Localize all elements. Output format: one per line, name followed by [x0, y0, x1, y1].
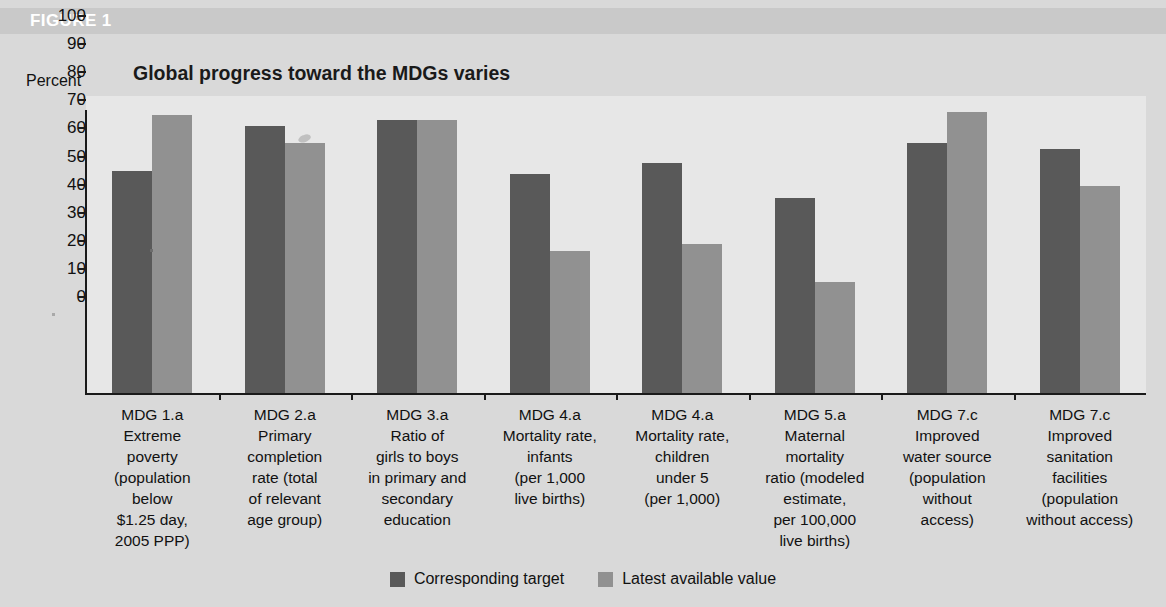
bar-corresponding-target[interactable] — [1040, 149, 1080, 393]
x-axis-category-label-line: (population — [86, 467, 219, 488]
x-axis-category-label-line: Improved — [881, 425, 1014, 446]
y-tick-mark — [78, 15, 86, 17]
x-axis-category-label-line: live births) — [749, 530, 882, 551]
x-axis-category-label-line: ratio (modeled — [749, 467, 882, 488]
x-tick-mark — [749, 393, 751, 400]
x-axis-category-label-line: Ratio of — [351, 425, 484, 446]
bar-latest-available-value[interactable] — [285, 143, 325, 393]
x-axis-category-label-line: estimate, — [749, 488, 882, 509]
x-axis-category-label-line: $1.25 day, — [86, 509, 219, 530]
x-axis-category-label: MDG 5.aMaternalmortalityratio (modeledes… — [749, 404, 882, 551]
x-axis-category-label-line: mortality — [749, 446, 882, 467]
x-axis-category-label-line: (population — [881, 467, 1014, 488]
bar-latest-available-value[interactable] — [417, 120, 457, 393]
legend-label: Corresponding target — [414, 570, 564, 588]
x-axis-category-label-line: girls to boys — [351, 446, 484, 467]
legend-swatch — [598, 572, 613, 587]
x-axis-category-label-line: sanitation — [1014, 446, 1147, 467]
x-axis-category-label-line: (per 1,000 — [484, 467, 617, 488]
x-axis-category-label: MDG 7.cImprovedwater source(populationwi… — [881, 404, 1014, 530]
x-axis-category-label: MDG 2.aPrimarycompletionrate (totalof re… — [219, 404, 352, 530]
x-axis-category-label-line: (per 1,000) — [616, 488, 749, 509]
legend-item[interactable]: Latest available value — [598, 570, 776, 588]
x-axis-category-label-line: Improved — [1014, 425, 1147, 446]
x-axis-category-label: MDG 3.aRatio ofgirls to boysin primary a… — [351, 404, 484, 530]
x-axis-category-label-line: completion — [219, 446, 352, 467]
x-axis-category-label-line: MDG 7.c — [881, 404, 1014, 425]
bar-latest-available-value[interactable] — [1080, 186, 1120, 393]
bar-corresponding-target[interactable] — [775, 198, 815, 393]
x-tick-mark — [219, 393, 221, 400]
bar-group — [510, 112, 590, 393]
x-tick-mark — [881, 393, 883, 400]
bar-group — [907, 112, 987, 393]
x-axis-category-label-line: water source — [881, 446, 1014, 467]
x-axis-category-label-line: secondary — [351, 488, 484, 509]
x-axis-category-label-line: live births) — [484, 488, 617, 509]
plot-area — [86, 112, 1146, 393]
bar-group — [775, 112, 855, 393]
x-axis-category-label-line: per 100,000 — [749, 509, 882, 530]
bar-latest-available-value[interactable] — [947, 112, 987, 393]
x-axis-category-label-line: Primary — [219, 425, 352, 446]
x-axis-category-label-line: 2005 PPP) — [86, 530, 219, 551]
x-axis-category-label-line: poverty — [86, 446, 219, 467]
x-axis-category-label-line: MDG 2.a — [219, 404, 352, 425]
bar-group — [245, 112, 325, 393]
bar-group — [642, 112, 722, 393]
scan-artifact-dot — [150, 249, 153, 252]
x-axis-category-label-line: without access) — [1014, 509, 1147, 530]
x-axis-category-label-line: MDG 3.a — [351, 404, 484, 425]
x-axis-category-label-line: (population — [1014, 488, 1147, 509]
x-axis-category-label-line: MDG 7.c — [1014, 404, 1147, 425]
x-axis-category-label: MDG 4.aMortality rate,infants(per 1,000l… — [484, 404, 617, 509]
bar-latest-available-value[interactable] — [815, 282, 855, 393]
x-axis-category-label-line: Mortality rate, — [484, 425, 617, 446]
y-tick-mark — [78, 43, 86, 45]
bar-group — [1040, 112, 1120, 393]
x-axis-category-label-line: MDG 4.a — [484, 404, 617, 425]
x-axis-category-label-line: in primary and — [351, 467, 484, 488]
legend-swatch — [390, 572, 405, 587]
chart-legend: Corresponding targetLatest available val… — [0, 570, 1166, 588]
bar-latest-available-value[interactable] — [152, 115, 192, 393]
chart-title-line-1: Global progress toward the MDGs varies — [133, 60, 571, 86]
y-tick-mark — [78, 99, 86, 101]
x-axis-category-label-line: Mortality rate, — [616, 425, 749, 446]
x-axis-category-label-line: without — [881, 488, 1014, 509]
legend-item[interactable]: Corresponding target — [390, 570, 564, 588]
x-axis-category-label-line: infants — [484, 446, 617, 467]
x-axis-category-label-line: children — [616, 446, 749, 467]
scan-artifact-dot — [52, 313, 55, 316]
bar-corresponding-target[interactable] — [642, 163, 682, 393]
x-axis-category-label-line: of relevant — [219, 488, 352, 509]
bar-corresponding-target[interactable] — [510, 174, 550, 393]
y-tick-mark — [78, 71, 86, 73]
x-tick-mark — [484, 393, 486, 400]
x-axis-category-label: MDG 1.aExtremepoverty(populationbelow$1.… — [86, 404, 219, 551]
bar-corresponding-target[interactable] — [245, 126, 285, 393]
x-axis-category-label-line: under 5 — [616, 467, 749, 488]
x-axis-category-label: MDG 4.aMortality rate,childrenunder 5(pe… — [616, 404, 749, 509]
x-axis-category-label-line: MDG 5.a — [749, 404, 882, 425]
bar-latest-available-value[interactable] — [682, 244, 722, 393]
x-tick-mark — [1014, 393, 1016, 400]
x-axis-category-label-line: below — [86, 488, 219, 509]
x-axis-category-label: MDG 7.cImprovedsanitationfacilities(popu… — [1014, 404, 1147, 530]
x-tick-mark — [616, 393, 618, 400]
x-axis-category-label-line: education — [351, 509, 484, 530]
x-axis-category-label-line: facilities — [1014, 467, 1147, 488]
x-axis-category-label-line: Extreme — [86, 425, 219, 446]
x-tick-mark — [351, 393, 353, 400]
bar-corresponding-target[interactable] — [377, 120, 417, 393]
legend-label: Latest available value — [622, 570, 776, 588]
bar-corresponding-target[interactable] — [907, 143, 947, 393]
bar-group — [112, 112, 192, 393]
x-axis-category-label-line: age group) — [219, 509, 352, 530]
x-axis-category-label-line: MDG 4.a — [616, 404, 749, 425]
bar-latest-available-value[interactable] — [550, 251, 590, 393]
bar-corresponding-target[interactable] — [112, 171, 152, 393]
bar-group — [377, 112, 457, 393]
x-axis-category-label-line: Maternal — [749, 425, 882, 446]
y-axis-ticks: 0102030405060708090100 — [28, 0, 86, 297]
